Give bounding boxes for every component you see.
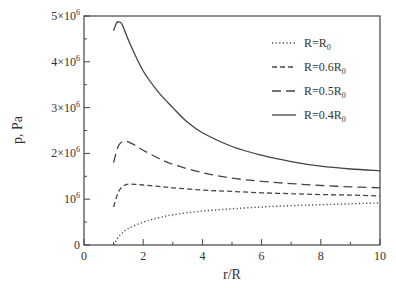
x-tick-label: 0	[81, 249, 87, 263]
x-tick-label: 10	[374, 249, 386, 263]
x-tick-label: 4	[199, 249, 205, 263]
x-tick-label: 6	[259, 249, 265, 263]
legend: R=R0R=0.6R0R=0.5R0R=0.4R0	[272, 36, 346, 124]
plot-area	[84, 16, 380, 245]
legend-label: R=0.6R0	[304, 60, 346, 76]
legend-label: R=0.4R0	[304, 108, 346, 124]
data-series	[114, 22, 380, 245]
series-line-dotted	[114, 203, 380, 245]
series-line-long-dash	[114, 141, 380, 188]
series-line-short-dash	[114, 184, 380, 207]
y-tick-label: 106	[64, 191, 80, 206]
x-tick-label: 8	[318, 249, 324, 263]
legend-label: R=0.5R0	[304, 84, 346, 100]
legend-label: R=R0	[304, 36, 331, 52]
plot-frame	[84, 16, 380, 245]
y-tick-label: 5×106	[51, 8, 80, 23]
x-axis-title: r/R	[223, 267, 242, 282]
y-tick-label: 2×106	[51, 145, 80, 160]
pressure-chart: 024681001062×1063×1064×1065×106 R=R0R=0.…	[0, 0, 396, 288]
y-tick-label: 3×106	[51, 100, 80, 115]
x-tick-label: 2	[140, 249, 146, 263]
y-axis-title: p, Pa	[10, 115, 25, 144]
y-tick-label: 0	[74, 238, 80, 252]
axis-ticks: 024681001062×1063×1064×1065×106	[51, 8, 386, 263]
y-tick-label: 4×106	[51, 54, 80, 69]
